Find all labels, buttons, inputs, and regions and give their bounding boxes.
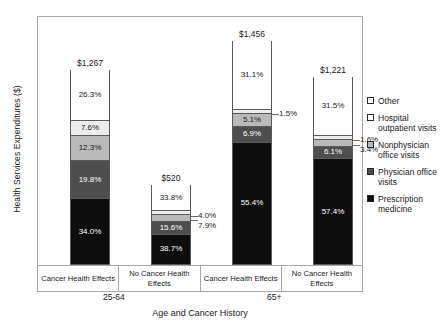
segment-percent-label: 55.4%: [241, 199, 264, 207]
bar-segment-hosp: 7.6%: [70, 120, 110, 135]
segment-percent-label: 7.6%: [81, 124, 99, 132]
segment-percent-label: 6.1%: [324, 148, 342, 156]
bar-total-label: $1,456: [212, 29, 292, 39]
legend-swatch-icon: [367, 141, 374, 148]
bar-segment-other: 31.1%: [232, 41, 272, 109]
bar-total-label: $1,221: [293, 65, 373, 75]
segment-percent-label: 15.6%: [160, 224, 183, 232]
segment-percent-label: 19.8%: [79, 176, 102, 184]
segment-leader-line: [272, 114, 279, 115]
segment-percent-label: 26.3%: [79, 91, 102, 99]
x-axis-label-2: No Cancer Health Effects: [118, 266, 199, 291]
bar-segment-phys: 6.1%: [313, 146, 353, 158]
chart-figure: Health Services Expenditures ($) $1,2672…: [0, 0, 443, 331]
x-axis-label-4: No Cancer Health Effects: [281, 266, 362, 291]
segment-leader-line: [191, 216, 198, 217]
segment-percent-label: 38.7%: [160, 245, 183, 253]
legend-swatch-icon: [367, 195, 374, 202]
bar-segment-presc: 57.4%: [313, 158, 353, 265]
segment-percent-label: 31.5%: [322, 102, 345, 110]
bar-segment-nonphys: [313, 139, 353, 146]
bar-segment-presc: 55.4%: [232, 142, 272, 265]
segment-percent-label: 12.3%: [79, 144, 102, 152]
bar-segment-presc: 34.0%: [70, 198, 110, 265]
x-axis-title: Age and Cancer History: [37, 308, 363, 318]
bar-segment-other: 26.3%: [70, 70, 110, 120]
legend-label: Physician office visits: [378, 167, 443, 187]
segment-leader-line: [353, 145, 360, 146]
bar-segment-presc: 38.7%: [151, 234, 191, 265]
bar-segment-phys: 15.6%: [151, 221, 191, 234]
segment-leader-line: [353, 140, 360, 141]
bar-1: $1,26726.3%7.6%12.3%19.8%34.0%: [70, 70, 110, 265]
segment-callout-label-hosp: 1.5%: [279, 110, 297, 118]
bar-segment-nonphys: 12.3%: [70, 135, 110, 159]
bar-total-label: $520: [131, 173, 211, 183]
segment-callout-label-hosp: 4.0%: [198, 212, 216, 220]
segment-callout-label-nonphys: 7.9%: [198, 222, 216, 230]
segment-percent-label: 31.1%: [241, 71, 264, 79]
legend-swatch-icon: [367, 114, 374, 121]
legend-swatch-icon: [367, 168, 374, 175]
bar-segment-nonphys: 5.1%: [232, 113, 272, 125]
legend-swatch-icon: [367, 97, 374, 104]
bar-segment-other: 33.8%: [151, 185, 191, 210]
chart-legend: OtherHospital outpatient visitsNonphysic…: [367, 96, 443, 221]
legend-item-1: Other: [367, 96, 443, 106]
segment-leader-line: [191, 220, 198, 221]
bar-total-label: $1,267: [50, 58, 130, 68]
legend-item-3: Nonphysician office visits: [367, 140, 443, 160]
segment-percent-label: 33.8%: [160, 194, 183, 202]
legend-label: Other: [378, 96, 399, 106]
plot-area: $1,26726.3%7.6%12.3%19.8%34.0%$52033.8%1…: [37, 16, 363, 266]
bar-segment-nonphys: [151, 214, 191, 221]
bar-segment-phys: 6.9%: [232, 126, 272, 142]
legend-item-2: Hospital outpatient visits: [367, 113, 443, 133]
legend-label: Nonphysician office visits: [378, 140, 443, 160]
segment-percent-label: 5.1%: [243, 116, 261, 124]
legend-item-4: Physician office visits: [367, 167, 443, 187]
segment-percent-label: 6.9%: [243, 130, 261, 138]
x-axis-label-1: Cancer Health Effects: [38, 266, 118, 291]
bar-segment-other: 31.5%: [313, 77, 353, 135]
legend-label: Prescription medicine: [378, 194, 443, 214]
x-axis-group-label-2: 65+: [267, 292, 281, 302]
x-axis-label-row: Cancer Health EffectsNo Cancer Health Ef…: [37, 266, 363, 292]
segment-percent-label: 57.4%: [322, 208, 345, 216]
segment-percent-label: 34.0%: [79, 228, 102, 236]
x-axis-label-3: Cancer Health Effects: [200, 266, 281, 291]
bar-4: $1,22131.5%6.1%57.4%: [313, 77, 353, 265]
legend-item-5: Prescription medicine: [367, 194, 443, 214]
bar-segment-phys: 19.8%: [70, 160, 110, 199]
legend-label: Hospital outpatient visits: [378, 113, 443, 133]
y-axis-title: Health Services Expenditures ($): [12, 49, 22, 249]
bar-3: $1,45631.1%5.1%6.9%55.4%: [232, 41, 272, 265]
x-axis-group-label-1: 25-64: [103, 292, 125, 302]
bar-2: $52033.8%15.6%38.7%: [151, 185, 191, 265]
